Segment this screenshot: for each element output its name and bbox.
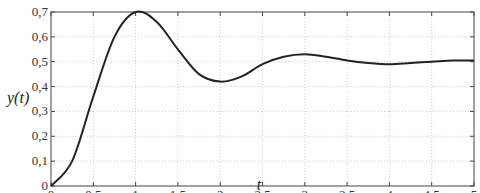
y-axis-label: y(t) [5, 89, 29, 107]
x-tick-label: 2 [217, 187, 224, 193]
x-tick-label: 1 [132, 187, 139, 193]
x-tick-label: 5 [471, 187, 478, 193]
y-tick-label: 0,7 [32, 4, 49, 19]
x-tick-label: 1,5 [170, 187, 186, 193]
x-tick-label: 4 [386, 187, 393, 193]
x-tick-label: 3,5 [339, 187, 355, 193]
y-tick-label: 0,4 [32, 79, 49, 94]
x-tick-label: 0,5 [85, 187, 101, 193]
y-tick-label: 0,1 [32, 153, 48, 168]
x-axis-label: t [257, 176, 262, 193]
x-tick-label: 3 [302, 187, 309, 193]
y-tick-label: 0,6 [32, 29, 49, 44]
y-tick-label: 0,5 [32, 54, 48, 69]
axis-ticks: 00,511,522,533,544,5500,10,20,30,40,50,6… [32, 4, 478, 193]
y-tick-label: 0 [42, 178, 49, 193]
y-tick-label: 0,3 [32, 103, 48, 118]
x-tick-label: 4,5 [424, 187, 440, 193]
x-tick-label: 0 [48, 187, 55, 193]
y-tick-label: 0,2 [32, 128, 48, 143]
step-response-chart: 00,511,522,533,544,5500,10,20,30,40,50,6… [0, 0, 480, 193]
